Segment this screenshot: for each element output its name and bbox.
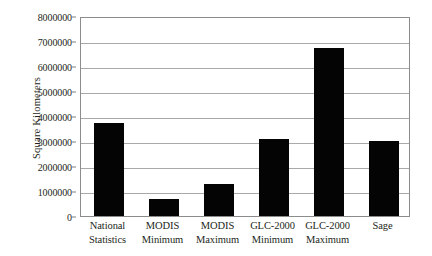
x-axis-tick-label: MODISMaximum	[190, 219, 245, 247]
y-axis-tick-label: 8000000	[38, 12, 72, 23]
y-axis-tick-mark	[72, 217, 76, 218]
y-axis-tick-mark	[72, 17, 76, 18]
y-axis-tick-label: 3000000	[38, 137, 72, 148]
bar-slot	[301, 18, 356, 216]
y-axis-tick-label: 7000000	[38, 37, 72, 48]
x-axis-tick-label-line2: Maximum	[190, 233, 245, 247]
x-axis-tick-label: NationalStatistics	[80, 219, 135, 247]
y-axis-tick-labels: 0100000020000003000000400000050000006000…	[28, 17, 76, 217]
y-axis-tick-mark	[72, 167, 76, 168]
x-axis-tick-label-line1: Sage	[372, 220, 392, 231]
bar-slot	[356, 18, 411, 216]
x-axis-tick-label: GLC-2000Maximum	[300, 219, 355, 247]
bar-slot	[191, 18, 246, 216]
x-axis-tick-label-line1: MODIS	[146, 220, 179, 231]
x-axis-tick-label-line2: Minimum	[135, 233, 190, 247]
x-axis-tick-label-line1: National	[90, 220, 125, 231]
x-axis-tick-label-line2: Statistics	[80, 233, 135, 247]
y-axis-tick-label: 4000000	[38, 112, 72, 123]
bar-slot	[246, 18, 301, 216]
x-axis-tick-label-line1: GLC-2000	[250, 220, 295, 231]
bars-layer	[81, 18, 409, 216]
x-axis-tick-label-line2: Maximum	[300, 233, 355, 247]
x-axis-tick-labels: NationalStatisticsMODISMinimumMODISMaxim…	[80, 219, 410, 255]
y-axis-tick-mark	[72, 42, 76, 43]
bar-slot	[136, 18, 191, 216]
x-axis-tick-label: Sage	[355, 219, 410, 233]
y-axis-tick-mark	[72, 67, 76, 68]
bar[interactable]	[149, 199, 179, 216]
bar-slot	[81, 18, 136, 216]
bar[interactable]	[369, 141, 399, 217]
y-axis-tick-mark	[72, 92, 76, 93]
x-axis-tick-label-line2: Minimum	[245, 233, 300, 247]
plot-area	[80, 17, 410, 217]
x-axis-tick-label: GLC-2000Minimum	[245, 219, 300, 247]
y-axis-tick-label: 6000000	[38, 62, 72, 73]
bar[interactable]	[94, 123, 124, 216]
x-axis-tick-label: MODISMinimum	[135, 219, 190, 247]
bar[interactable]	[204, 184, 234, 216]
x-axis-tick-label-line1: MODIS	[201, 220, 234, 231]
y-axis-tick-label: 5000000	[38, 87, 72, 98]
x-axis-tick-label-line1: GLC-2000	[305, 220, 350, 231]
y-axis-tick-mark	[72, 142, 76, 143]
y-axis-tick-mark	[72, 192, 76, 193]
y-axis-tick-mark	[72, 117, 76, 118]
y-axis-tick-label: 1000000	[38, 187, 72, 198]
bar[interactable]	[259, 139, 289, 216]
y-axis-tick-label: 2000000	[38, 162, 72, 173]
bar[interactable]	[314, 48, 344, 216]
bar-chart: Square Kilometers 0100000020000003000000…	[0, 0, 432, 256]
